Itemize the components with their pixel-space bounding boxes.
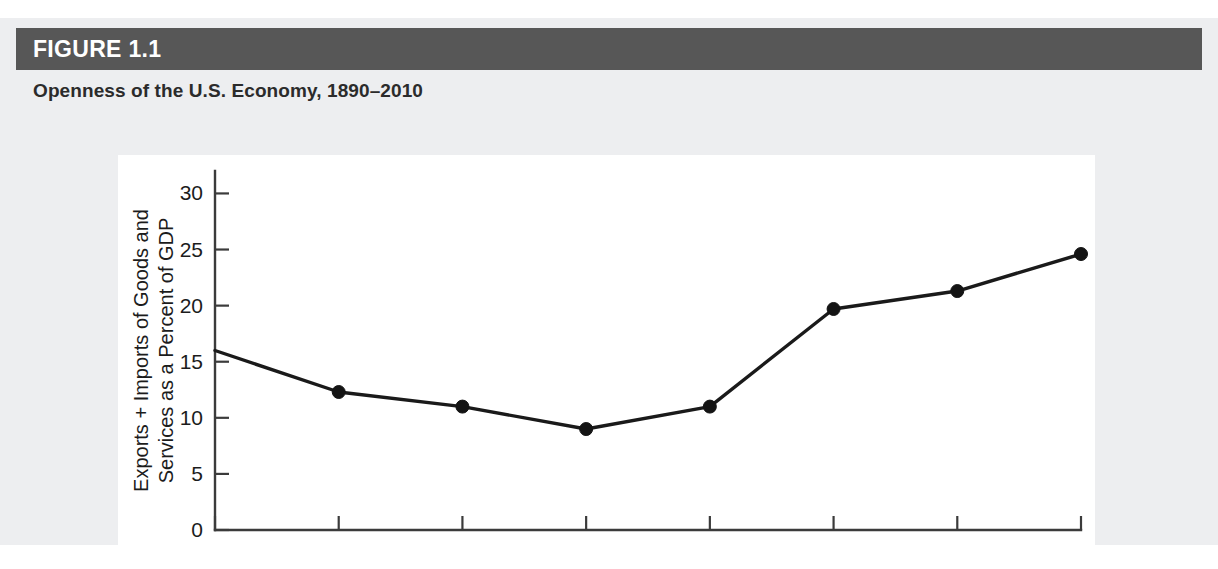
x-tick-label: 1990: [810, 540, 857, 545]
chart-axes: [215, 171, 1081, 530]
x-tick-label: 1910: [315, 540, 362, 545]
x-tick-label: 1970: [686, 540, 733, 545]
x-tick-label: 1890: [192, 540, 239, 545]
series-line: [215, 254, 1081, 429]
series-point: [827, 302, 840, 315]
series-point: [1075, 248, 1088, 261]
y-tick-label: 5: [191, 462, 203, 485]
y-axis-ticks: 051015202530: [180, 181, 229, 541]
x-tick-label: 1950: [563, 540, 610, 545]
y-tick-label: 15: [180, 350, 203, 373]
x-tick-label: 2000: [934, 540, 981, 545]
figure-title: Openness of the U.S. Economy, 1890–2010: [33, 80, 423, 102]
series-point: [703, 400, 716, 413]
y-tick-label: 25: [180, 238, 203, 261]
y-tick-label: 30: [180, 181, 203, 204]
series-point: [332, 386, 345, 399]
chart-plot-panel: 051015202530 189019101930195019701990200…: [118, 155, 1095, 545]
y-tick-label: 10: [180, 406, 203, 429]
line-chart: 051015202530 189019101930195019701990200…: [118, 155, 1095, 545]
figure-number-bar: FIGURE 1.1: [16, 28, 1202, 70]
data-series: [215, 248, 1088, 436]
y-axis-title-line: Exports + Imports of Goods and: [130, 209, 152, 492]
x-tick-label: 1930: [439, 540, 486, 545]
y-axis-title-line: Services as a Percent of GDP: [155, 218, 177, 484]
series-point: [580, 423, 593, 436]
series-point: [456, 400, 469, 413]
series-point: [951, 285, 964, 298]
y-tick-label: 0: [191, 518, 203, 541]
x-tick-label: 2010: [1058, 540, 1095, 545]
y-tick-label: 20: [180, 294, 203, 317]
figure-block: FIGURE 1.1 Openness of the U.S. Economy,…: [0, 18, 1218, 545]
figure-number-label: FIGURE 1.1: [16, 38, 161, 61]
y-axis-title: Exports + Imports of Goods andServices a…: [130, 209, 177, 492]
